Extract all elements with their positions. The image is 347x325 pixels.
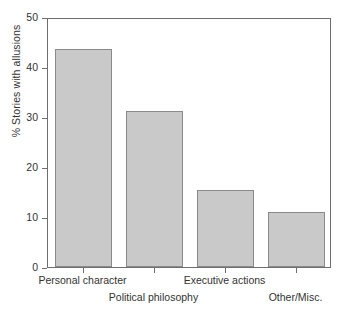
y-tick-label: 0 (32, 261, 38, 273)
y-tick-mark (42, 268, 47, 269)
x-tick-mark (225, 268, 226, 273)
x-tick-mark (83, 268, 84, 273)
y-tick-label: 20 (26, 161, 38, 173)
bar (55, 49, 112, 268)
y-tick-label: 50 (26, 11, 38, 23)
y-tick-label: 10 (26, 211, 38, 223)
bar (197, 190, 254, 268)
x-tick-label: Personal character (38, 274, 126, 286)
bar (268, 212, 325, 267)
y-axis-title-wrapper: % Stories with allusions (2, 0, 20, 290)
x-tick-mark (154, 268, 155, 273)
y-tick-label: 30 (26, 111, 38, 123)
plot-area (47, 18, 331, 268)
x-tick-mark (296, 268, 297, 273)
bar-chart-figure: % Stories with allusions 01020304050 Per… (0, 0, 347, 325)
bar (126, 111, 183, 268)
y-tick-label: 40 (26, 61, 38, 73)
y-axis-title: % Stories with allusions (10, 0, 22, 191)
x-tick-label: Other/Misc. (269, 291, 323, 303)
x-tick-label: Political philosophy (109, 291, 198, 303)
x-tick-label: Executive actions (184, 274, 266, 286)
